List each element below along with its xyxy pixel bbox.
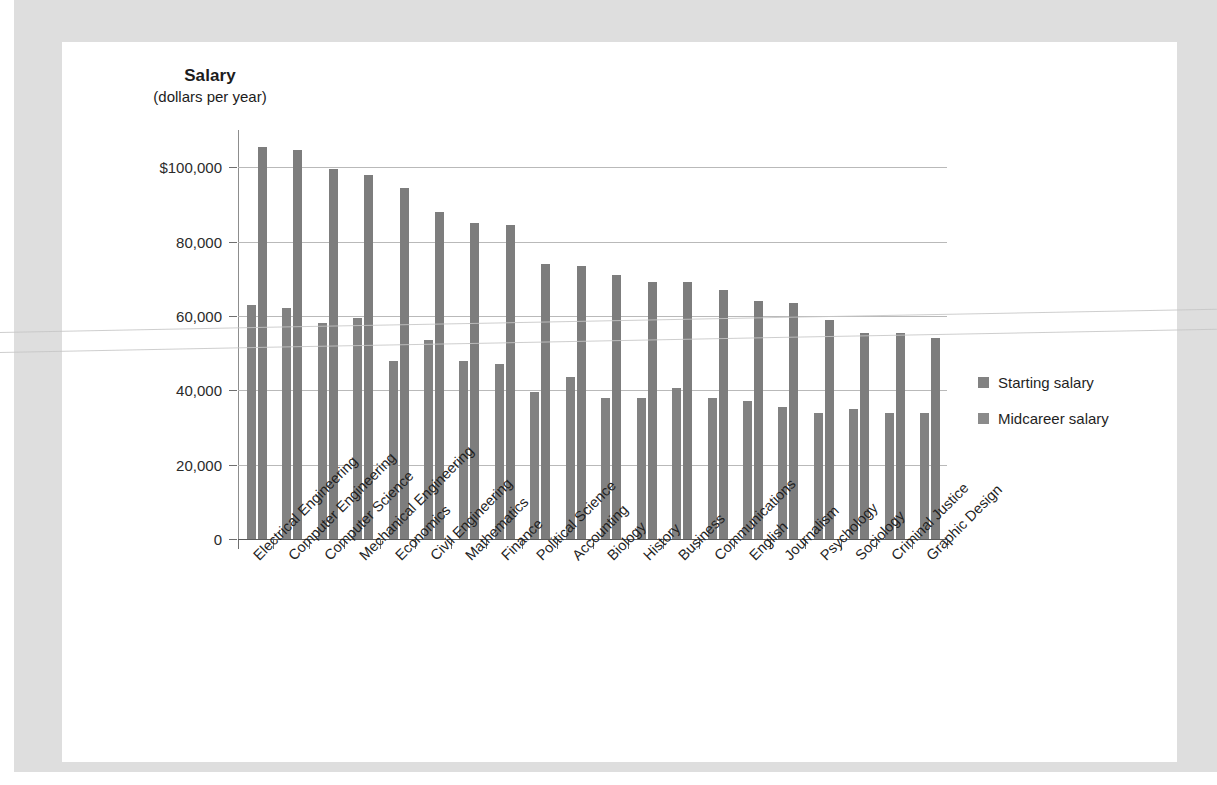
chart-subtitle: (dollars per year) xyxy=(100,87,320,107)
bar xyxy=(247,305,256,539)
y-axis-tick xyxy=(229,465,237,466)
y-axis-tick-label: 20,000 xyxy=(102,456,222,473)
bar xyxy=(470,223,479,539)
legend-item-starting-salary[interactable]: Starting salary xyxy=(978,364,1109,400)
legend-item-midcareer-salary[interactable]: Midcareer salary xyxy=(978,400,1109,436)
chart-title-block: Salary (dollars per year) xyxy=(100,66,320,107)
chart-page: Salary (dollars per year) $100,00080,000… xyxy=(0,0,1217,785)
page-border-bottom xyxy=(0,772,1217,785)
gridline xyxy=(238,242,947,243)
legend-swatch-icon xyxy=(978,377,989,388)
chart-legend: Starting salary Midcareer salary xyxy=(978,364,1109,436)
page-title: Salary xyxy=(100,66,320,86)
y-axis-tick-label: 60,000 xyxy=(102,307,222,324)
gridline xyxy=(238,390,947,391)
x-axis-tick xyxy=(238,540,239,549)
bar xyxy=(424,340,433,539)
y-axis-tick xyxy=(229,390,237,391)
y-axis-line xyxy=(238,130,239,540)
gridline xyxy=(238,167,947,168)
bar xyxy=(541,264,550,539)
bar xyxy=(612,275,621,539)
y-axis-tick xyxy=(229,539,237,540)
bar xyxy=(789,303,798,539)
y-axis-tick-label: 80,000 xyxy=(102,233,222,250)
bar xyxy=(282,308,291,539)
legend-label: Starting salary xyxy=(998,374,1094,391)
bar xyxy=(577,266,586,539)
bar xyxy=(318,323,327,539)
y-axis-tick-label: 40,000 xyxy=(102,382,222,399)
bar xyxy=(258,147,267,539)
y-axis-tick xyxy=(229,242,237,243)
legend-swatch-icon xyxy=(978,413,989,424)
bar xyxy=(353,318,362,539)
bar xyxy=(672,388,681,539)
y-axis-tick-label: 0 xyxy=(102,531,222,548)
y-axis-tick xyxy=(229,316,237,317)
y-axis-tick-label: $100,000 xyxy=(102,159,222,176)
y-axis-tick xyxy=(229,167,237,168)
bar xyxy=(293,150,302,539)
legend-label: Midcareer salary xyxy=(998,410,1109,427)
bar xyxy=(683,282,692,539)
bar xyxy=(648,282,657,539)
bar xyxy=(719,290,728,539)
